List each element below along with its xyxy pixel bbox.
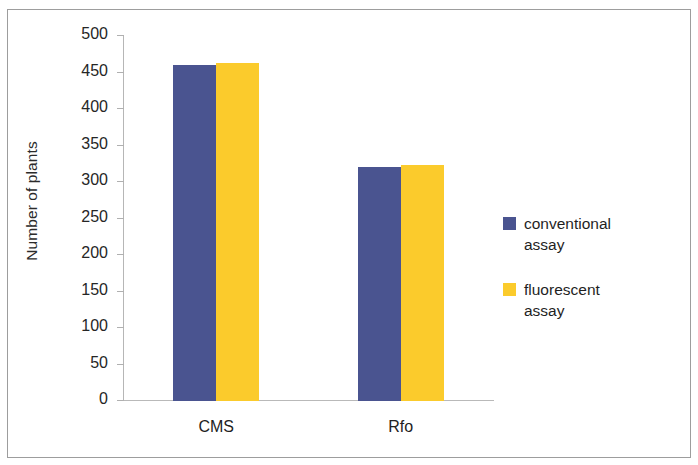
y-axis-tick-label: 200 [81, 244, 108, 262]
y-axis-tick-mark [117, 254, 124, 255]
x-axis-category-label: Rfo [341, 418, 461, 436]
legend-label-line2: assay [524, 300, 653, 321]
y-axis-tick-mark [117, 35, 124, 36]
y-axis-tick-mark [117, 327, 124, 328]
y-axis-tick-label: 150 [81, 281, 108, 299]
y-axis-tick-label: 300 [81, 171, 108, 189]
legend-label-line1: conventional [524, 213, 653, 234]
y-axis-tick-label: 500 [81, 25, 108, 43]
y-axis-title: Number of plants [23, 111, 41, 291]
y-axis-tick-mark [117, 400, 124, 401]
y-axis-tick-label: 350 [81, 135, 108, 153]
y-axis-tick-mark [117, 181, 124, 182]
x-axis-category-label: CMS [156, 418, 276, 436]
y-axis-tick-mark [117, 218, 124, 219]
y-axis-tick-mark [117, 108, 124, 109]
bar-cms-conventional [173, 65, 216, 401]
y-axis-tick-label: 0 [99, 390, 108, 408]
y-axis-tick-label: 450 [81, 62, 108, 80]
y-axis-tick-label: 250 [81, 208, 108, 226]
y-axis-tick-mark [117, 145, 124, 146]
y-axis-tick-label: 100 [81, 317, 108, 335]
legend-item-conventional[interactable]: conventionalassay [503, 213, 653, 255]
y-axis-tick-mark [117, 291, 124, 292]
y-axis-tick-label: 400 [81, 98, 108, 116]
bar-rfo-conventional [358, 167, 401, 401]
bar-chart: Number of plants 50045040035030025020015… [0, 0, 698, 465]
bar-cms-fluorescent [216, 63, 259, 401]
legend-swatch-icon [503, 283, 516, 296]
chart-legend: conventionalassayfluorescentassay [503, 213, 653, 345]
y-axis-tick-mark [117, 72, 124, 73]
plot-area [124, 36, 493, 401]
bar-rfo-fluorescent [401, 165, 444, 401]
legend-label-line1: fluorescent [524, 279, 653, 300]
legend-item-fluorescent[interactable]: fluorescentassay [503, 279, 653, 321]
legend-label-line2: assay [524, 234, 653, 255]
legend-swatch-icon [503, 217, 516, 230]
y-axis-tick-mark [117, 364, 124, 365]
y-axis-tick-label: 50 [90, 354, 108, 372]
